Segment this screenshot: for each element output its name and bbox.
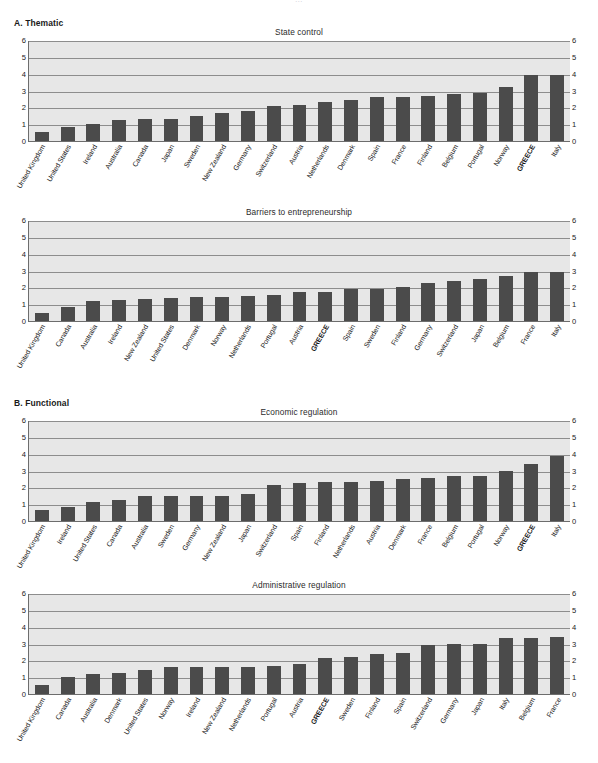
bar[interactable] [293, 105, 307, 141]
bar[interactable] [215, 297, 229, 321]
bar[interactable] [241, 111, 255, 141]
bar[interactable] [499, 87, 513, 141]
bar[interactable] [318, 292, 332, 321]
bar[interactable] [35, 510, 49, 521]
bar[interactable] [396, 97, 410, 141]
bar[interactable] [318, 482, 332, 521]
bar[interactable] [293, 292, 307, 321]
bar-slot [81, 594, 107, 694]
bar[interactable] [524, 75, 538, 141]
bar[interactable] [421, 645, 435, 694]
bar-slot [209, 594, 235, 694]
y-axis-right: 0123456 [570, 594, 584, 695]
bar[interactable] [370, 481, 384, 521]
bar[interactable] [473, 644, 487, 694]
bar[interactable] [35, 685, 49, 694]
bar[interactable] [112, 300, 126, 321]
bar[interactable] [447, 644, 461, 694]
bar[interactable] [447, 94, 461, 141]
bar[interactable] [344, 482, 358, 521]
bar[interactable] [396, 287, 410, 322]
y-tick-label: 1 [22, 674, 26, 682]
bar[interactable] [215, 113, 229, 141]
bar[interactable] [293, 664, 307, 694]
bar[interactable] [164, 119, 178, 141]
bar[interactable] [241, 296, 255, 321]
bar[interactable] [550, 456, 564, 521]
bar[interactable] [138, 496, 152, 521]
bar[interactable] [241, 667, 255, 694]
bar[interactable] [550, 637, 564, 694]
bar[interactable] [550, 272, 564, 321]
x-tick-slot: GREECE [518, 142, 544, 200]
bar[interactable] [344, 100, 358, 141]
bar[interactable] [524, 272, 538, 321]
bar[interactable] [344, 289, 358, 321]
bar[interactable] [396, 479, 410, 521]
bar[interactable] [164, 667, 178, 694]
bar[interactable] [112, 120, 126, 141]
bar[interactable] [164, 496, 178, 521]
x-tick-slot: Italy [493, 695, 519, 759]
bar[interactable] [86, 502, 100, 521]
bar[interactable] [499, 471, 513, 521]
bar[interactable] [499, 638, 513, 694]
bar[interactable] [524, 464, 538, 521]
bar[interactable] [190, 297, 204, 321]
bar[interactable] [190, 667, 204, 694]
bar[interactable] [421, 478, 435, 521]
bar[interactable] [473, 476, 487, 521]
bar[interactable] [86, 301, 100, 321]
bar[interactable] [61, 677, 75, 694]
bar[interactable] [86, 124, 100, 141]
bar[interactable] [421, 96, 435, 141]
bar[interactable] [293, 483, 307, 521]
bar[interactable] [190, 496, 204, 521]
bar[interactable] [112, 500, 126, 521]
bar[interactable] [138, 119, 152, 141]
bar[interactable] [61, 307, 75, 321]
bar[interactable] [190, 116, 204, 141]
x-tick-slot: Norway [493, 142, 519, 200]
bar[interactable] [447, 281, 461, 321]
bar[interactable] [318, 102, 332, 141]
bar[interactable] [499, 276, 513, 321]
bar[interactable] [267, 485, 281, 521]
bar[interactable] [112, 673, 126, 694]
bar[interactable] [370, 97, 384, 141]
bar[interactable] [267, 106, 281, 141]
bar[interactable] [344, 657, 358, 694]
bar[interactable] [267, 666, 281, 694]
bar-slot [467, 421, 493, 521]
y-tick-label: 5 [572, 54, 576, 62]
bar-slot [467, 41, 493, 141]
bar[interactable] [164, 298, 178, 321]
bar[interactable] [241, 494, 255, 521]
bar-slot [390, 594, 416, 694]
bar[interactable] [35, 132, 49, 141]
bar[interactable] [215, 496, 229, 521]
bar-slot [235, 421, 261, 521]
bar[interactable] [473, 93, 487, 141]
x-tick-label: Portugal [467, 524, 486, 550]
bar[interactable] [370, 654, 384, 694]
bar[interactable] [550, 75, 564, 141]
bar[interactable] [86, 674, 100, 694]
x-tick-label: Belgium [519, 697, 538, 722]
bar[interactable] [318, 658, 332, 694]
bar[interactable] [267, 295, 281, 321]
bar[interactable] [421, 283, 435, 321]
y-tick-label: 1 [22, 121, 26, 129]
bar[interactable] [396, 653, 410, 694]
bar[interactable] [215, 667, 229, 694]
bar[interactable] [370, 289, 384, 321]
bar[interactable] [138, 670, 152, 694]
bar[interactable] [61, 127, 75, 141]
bar[interactable] [138, 299, 152, 321]
bar[interactable] [524, 638, 538, 694]
bar[interactable] [447, 476, 461, 521]
bar[interactable] [35, 313, 49, 321]
bar[interactable] [61, 507, 75, 521]
bar-slot [55, 41, 81, 141]
bar[interactable] [473, 279, 487, 321]
